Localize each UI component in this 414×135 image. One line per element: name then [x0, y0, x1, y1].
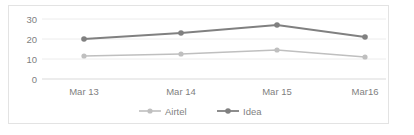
data-point-idea-2 [274, 22, 280, 28]
legend-item-airtel[interactable]: Airtel [139, 106, 187, 117]
x-tick-1: Mar 14 [166, 86, 196, 97]
y-tick-0: 0 [32, 74, 37, 85]
y-axis-tick-labels: 30 20 10 0 [26, 14, 37, 85]
data-point-idea-3 [362, 34, 368, 40]
x-tick-2: Mar 15 [262, 86, 292, 97]
chart-container: 30 20 10 0 Mar 13 Mar 14 Mar 15 Mar16 [8, 5, 389, 124]
gridlines [42, 19, 386, 79]
x-tick-3: Mar16 [352, 86, 379, 97]
line-chart-svg: 30 20 10 0 Mar 13 Mar 14 Mar 15 Mar16 [9, 6, 388, 123]
y-tick-20: 20 [26, 34, 37, 45]
data-point-airtel-2 [274, 47, 279, 52]
series-line-idea [84, 25, 365, 39]
x-tick-0: Mar 13 [69, 86, 99, 97]
legend-marker-airtel [147, 108, 152, 113]
series-airtel [81, 47, 367, 59]
x-axis-tick-labels: Mar 13 Mar 14 Mar 15 Mar16 [69, 86, 378, 97]
y-tick-10: 10 [26, 54, 37, 65]
chart-legend: Airtel Idea [139, 106, 262, 117]
series-line-airtel [84, 50, 365, 57]
data-point-airtel-0 [81, 53, 86, 58]
y-tick-30: 30 [26, 14, 37, 25]
legend-label-idea: Idea [243, 106, 262, 117]
legend-marker-idea [225, 108, 231, 114]
data-point-airtel-1 [178, 51, 183, 56]
legend-item-idea[interactable]: Idea [217, 106, 262, 117]
legend-label-airtel: Airtel [165, 106, 187, 117]
data-point-idea-1 [178, 30, 184, 36]
data-point-airtel-3 [362, 54, 367, 59]
data-point-idea-0 [81, 36, 87, 42]
plot-area: 30 20 10 0 Mar 13 Mar 14 Mar 15 Mar16 [9, 6, 388, 123]
